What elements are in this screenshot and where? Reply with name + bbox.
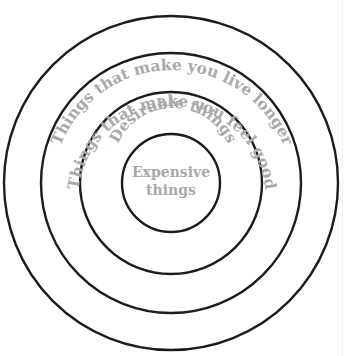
diagram-svg: Things that make you live longer Things … [0, 0, 348, 356]
concentric-diagram: Things that make you live longer Things … [0, 0, 348, 356]
center-label-line1: Expensive [132, 164, 210, 180]
center-label-line2: things [146, 182, 196, 198]
